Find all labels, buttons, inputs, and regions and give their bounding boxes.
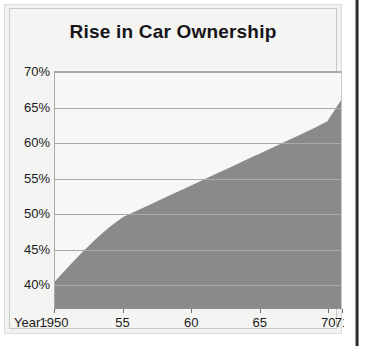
gridline xyxy=(55,143,341,144)
chart-title: Rise in Car Ownership xyxy=(10,21,336,43)
gridline xyxy=(55,179,341,180)
plot-area xyxy=(54,71,342,309)
gridline xyxy=(55,285,341,286)
gridline xyxy=(55,72,341,73)
figure-panel: Rise in Car Ownership 70%65%60%55%50%45%… xyxy=(4,4,342,334)
gridline xyxy=(55,108,341,109)
x-axis: 19505560657071 xyxy=(54,309,342,339)
x-tick xyxy=(342,309,343,313)
y-tick-label: 65% xyxy=(12,99,50,114)
x-tick xyxy=(260,309,261,313)
x-tick xyxy=(123,309,124,313)
page-column-divider xyxy=(355,0,359,346)
y-tick-label: 55% xyxy=(12,170,50,185)
screenshot-page: Rise in Car Ownership 70%65%60%55%50%45%… xyxy=(0,0,366,346)
gridline xyxy=(55,214,341,215)
x-tick-label: 70 xyxy=(321,315,335,330)
x-tick xyxy=(54,309,55,313)
page-gutter xyxy=(344,0,355,346)
y-axis: 70%65%60%55%50%45%40% xyxy=(10,71,50,309)
gridline xyxy=(55,250,341,251)
figure-frame: Rise in Car Ownership 70%65%60%55%50%45%… xyxy=(9,8,337,329)
x-tick-label: 60 xyxy=(184,315,198,330)
x-tick-label: 65 xyxy=(252,315,266,330)
y-tick-label: 45% xyxy=(12,241,50,256)
y-tick-label: 50% xyxy=(12,206,50,221)
x-tick-label: 1950 xyxy=(40,315,69,330)
x-tick-label: 55 xyxy=(115,315,129,330)
y-tick-label: 60% xyxy=(12,135,50,150)
x-tick xyxy=(328,309,329,313)
y-tick-label: 40% xyxy=(12,277,50,292)
x-tick xyxy=(191,309,192,313)
area-fill-path xyxy=(55,100,341,308)
y-tick-label: 70% xyxy=(12,64,50,79)
